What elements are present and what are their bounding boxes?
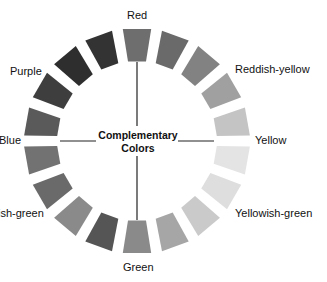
label-green: Green <box>123 261 154 273</box>
color-segment <box>24 108 60 137</box>
color-segment <box>85 213 118 252</box>
label-red: Red <box>127 9 147 21</box>
color-segment <box>54 46 93 86</box>
color-segment <box>123 221 151 254</box>
color-segment <box>214 108 250 137</box>
label-bluish-green: ish-green <box>0 207 44 219</box>
label-purple: Purple <box>10 65 42 77</box>
color-segment <box>201 73 241 109</box>
color-segment <box>156 31 189 70</box>
color-segment <box>156 213 189 252</box>
color-segment <box>85 31 118 70</box>
center-title: Complementary Colors <box>97 129 179 155</box>
color-segment <box>54 196 93 236</box>
color-segment <box>181 46 220 86</box>
label-reddish-yellow: Reddish-yellow <box>235 63 310 75</box>
center-title-line2: Colors <box>97 142 179 155</box>
label-yellowish-green: Yellowish-green <box>235 207 312 219</box>
label-blue: Blue <box>0 134 21 146</box>
center-title-line1: Complementary <box>97 129 179 142</box>
color-segment <box>123 29 151 62</box>
color-segment <box>181 196 220 236</box>
color-segment <box>33 73 73 109</box>
color-segment <box>33 173 73 209</box>
color-segment <box>24 146 60 175</box>
color-segment <box>201 173 241 209</box>
label-yellow: Yellow <box>255 134 286 146</box>
color-segment <box>214 146 250 175</box>
